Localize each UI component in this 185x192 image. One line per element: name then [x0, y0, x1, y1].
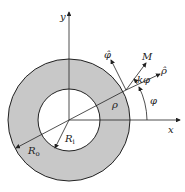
rho-hat-label: ρ̂ — [160, 65, 167, 76]
phi-arc — [139, 87, 147, 120]
m-label: M — [141, 51, 153, 62]
y-axis-label: y — [59, 11, 66, 22]
phi-hat-label: φ̂ — [104, 49, 111, 60]
x-axis-label: x — [168, 124, 174, 135]
rho-label: ρ — [111, 99, 118, 110]
cropped-caption — [0, 186, 185, 192]
phi-label: φ — [150, 95, 157, 106]
annulus-diagram: y x φ̂ M ρ̂ kφ ρ φ Ri Ro — [0, 0, 185, 192]
k-phi-label: kφ — [137, 74, 150, 85]
